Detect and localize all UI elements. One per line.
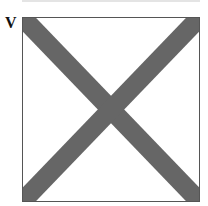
saltire-flag-icon [22, 17, 200, 202]
flag-letter-label: V [5, 15, 17, 31]
top-divider [22, 0, 200, 2]
signal-flag-v [22, 17, 200, 202]
